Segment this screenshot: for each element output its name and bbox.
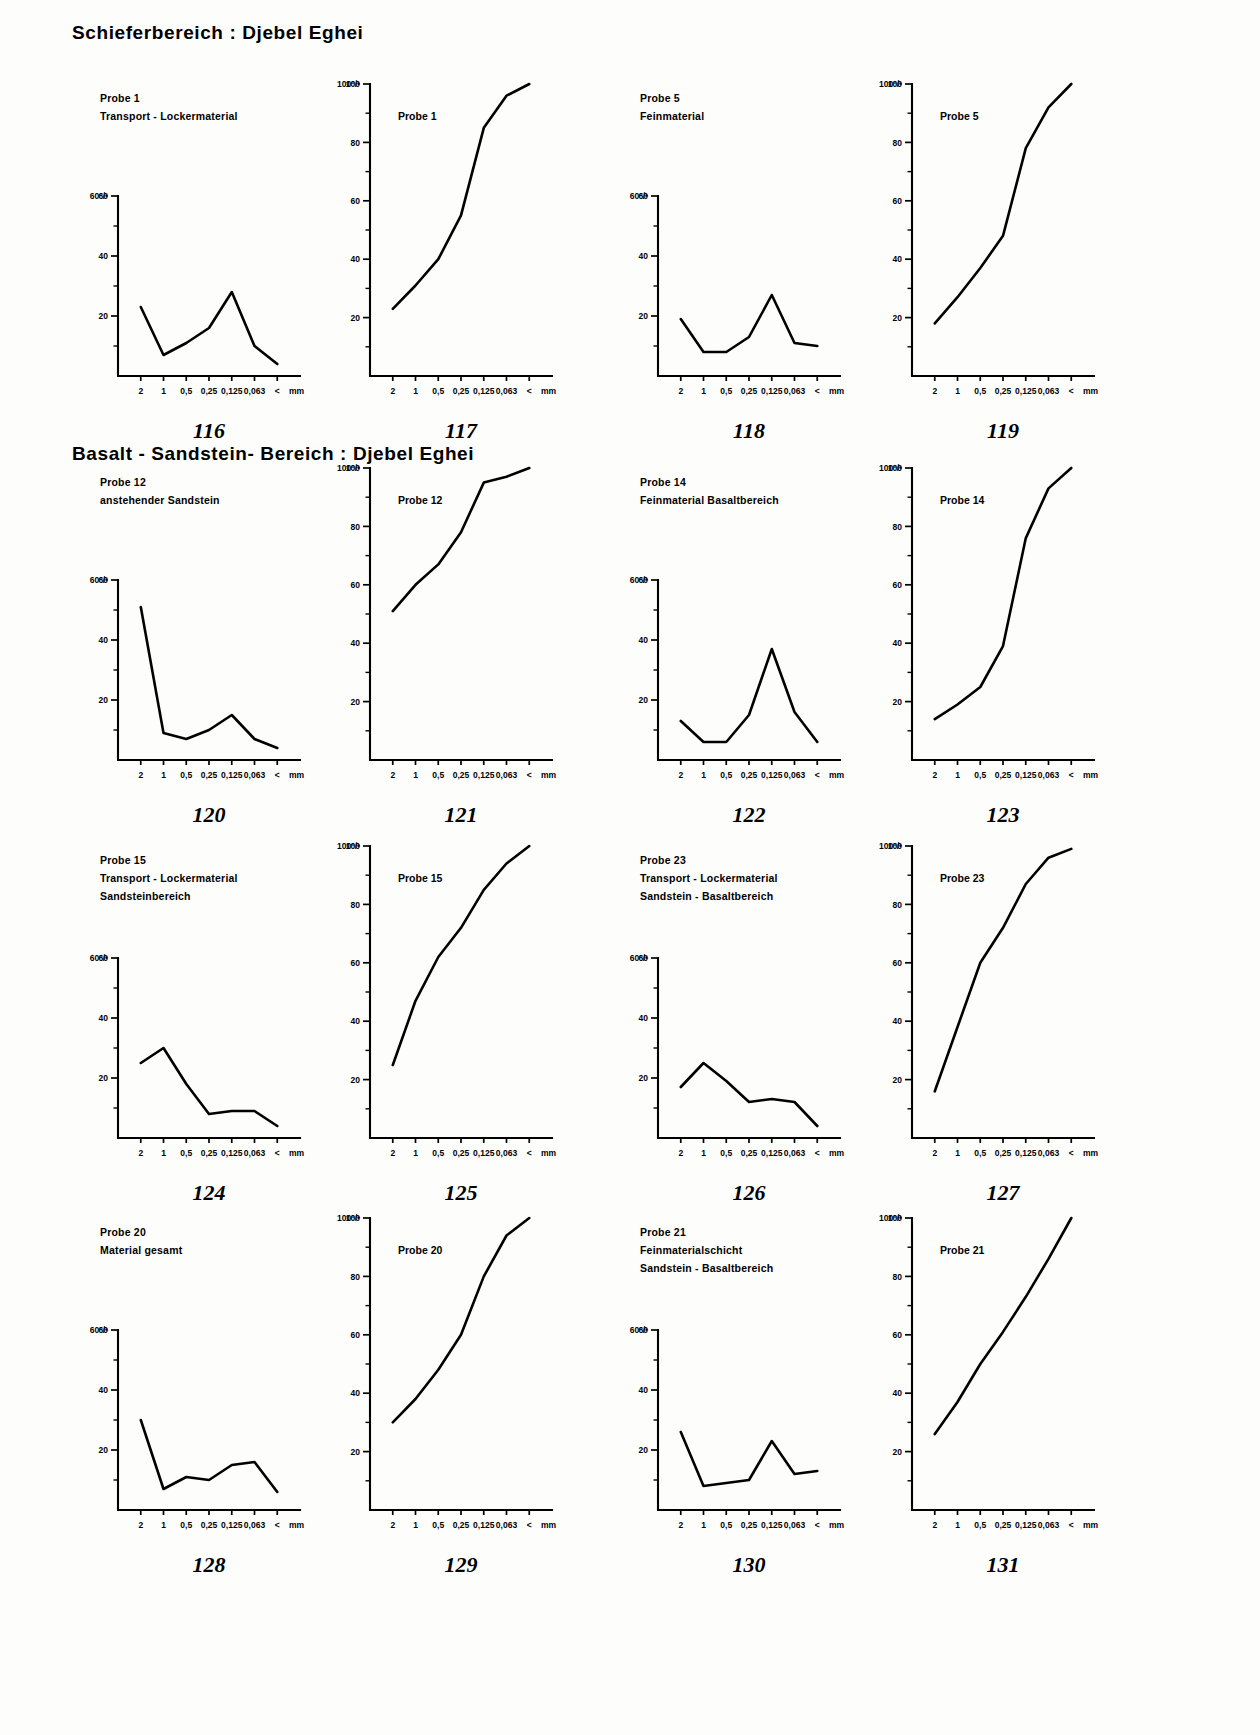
figure-number-123: 123 (963, 802, 1043, 828)
svg-text:<: < (1069, 770, 1074, 780)
svg-text:<: < (527, 1148, 532, 1158)
svg-text:0,25: 0,25 (201, 1520, 218, 1530)
svg-text:0,25: 0,25 (453, 770, 470, 780)
svg-text:80: 80 (351, 522, 361, 532)
chart-122-plot: 20406060°/•210,50,250,1250,063<mm (618, 462, 878, 806)
svg-text:60: 60 (351, 196, 361, 206)
svg-text:40: 40 (351, 254, 361, 264)
svg-text:40: 40 (99, 251, 109, 261)
svg-text:0,063: 0,063 (496, 1148, 518, 1158)
svg-text:2: 2 (138, 1520, 143, 1530)
svg-text:0,25: 0,25 (995, 1148, 1012, 1158)
svg-text:1: 1 (413, 1520, 418, 1530)
chart-120-plot: 20406060°/•210,50,250,1250,063<mm (78, 462, 338, 806)
svg-text:0,125: 0,125 (473, 1148, 495, 1158)
svg-text:1: 1 (161, 386, 166, 396)
svg-text:100°/•: 100°/• (337, 1213, 360, 1223)
svg-text:80: 80 (893, 138, 903, 148)
svg-text:0,5: 0,5 (974, 1148, 986, 1158)
chart-117-plot: 20406080100100°/•210,50,250,1250,063<mmP… (330, 78, 590, 422)
svg-text:2: 2 (390, 1520, 395, 1530)
chart-125-plot: 20406080100100°/•210,50,250,1250,063<mmP… (330, 840, 590, 1184)
chart-126-caption-line-3: Sandstein - Basaltbereich (640, 890, 773, 902)
chart-cell-118: Probe 5Feinmaterial20406060°/•210,50,250… (618, 78, 878, 464)
svg-text:20: 20 (351, 313, 361, 323)
svg-text:0,063: 0,063 (784, 386, 806, 396)
chart-120-caption-line-2: anstehender Sandstein (100, 494, 220, 506)
chart-125-caption-line-1: Probe 15 (398, 872, 443, 884)
svg-text:60: 60 (893, 958, 903, 968)
figure-number-127: 127 (963, 1180, 1043, 1206)
svg-text:1: 1 (413, 1148, 418, 1158)
svg-text:0,063: 0,063 (784, 1148, 806, 1158)
svg-text:0,125: 0,125 (761, 1520, 783, 1530)
chart-126-caption-line-2: Transport - Lockermaterial (640, 872, 778, 884)
svg-text:0,25: 0,25 (201, 386, 218, 396)
chart-116-plot: 20406060°/•210,50,250,1250,063<mm (78, 78, 338, 422)
svg-text:0,125: 0,125 (473, 770, 495, 780)
svg-text:0,25: 0,25 (201, 1148, 218, 1158)
svg-text:20: 20 (893, 697, 903, 707)
svg-text:0,5: 0,5 (720, 1148, 732, 1158)
svg-text:20: 20 (639, 1445, 649, 1455)
svg-text:40: 40 (893, 638, 903, 648)
svg-text:60: 60 (893, 196, 903, 206)
svg-text:100°/•: 100°/• (337, 841, 360, 851)
svg-text:1: 1 (413, 770, 418, 780)
svg-text:0,125: 0,125 (1015, 386, 1037, 396)
svg-text:80: 80 (351, 900, 361, 910)
figure-number-120: 120 (169, 802, 249, 828)
svg-text:20: 20 (893, 1075, 903, 1085)
chart-cell-120: Probe 12anstehender Sandstein20406060°/•… (78, 462, 338, 848)
svg-text:0,125: 0,125 (221, 1520, 243, 1530)
figure-number-118: 118 (709, 418, 789, 444)
svg-text:0,063: 0,063 (1038, 770, 1060, 780)
svg-text:100°/•: 100°/• (879, 79, 902, 89)
svg-text:80: 80 (351, 1272, 361, 1282)
chart-130-curve (681, 1432, 818, 1486)
svg-text:mm: mm (541, 770, 557, 780)
svg-text:60: 60 (351, 1330, 361, 1340)
chart-127-plot: 20406080100100°/•210,50,250,1250,063<mmP… (872, 840, 1132, 1184)
chart-122-curve (681, 649, 818, 742)
figure-number-129: 129 (421, 1552, 501, 1578)
svg-text:0,125: 0,125 (473, 386, 495, 396)
svg-text:20: 20 (893, 313, 903, 323)
svg-text:2: 2 (932, 1148, 937, 1158)
svg-text:2: 2 (932, 1520, 937, 1530)
svg-text:2: 2 (678, 1148, 683, 1158)
figure-number-119: 119 (963, 418, 1043, 444)
svg-text:<: < (527, 770, 532, 780)
chart-124-caption-line-3: Sandsteinbereich (100, 890, 191, 902)
svg-text:0,063: 0,063 (1038, 1520, 1060, 1530)
svg-text:20: 20 (351, 697, 361, 707)
svg-text:0,063: 0,063 (784, 1520, 806, 1530)
svg-text:20: 20 (639, 311, 649, 321)
svg-text:60°/•: 60°/• (630, 191, 648, 201)
svg-text:0,125: 0,125 (1015, 770, 1037, 780)
svg-text:<: < (275, 1520, 280, 1530)
chart-128-caption-line-1: Probe 20 (100, 1226, 146, 1238)
svg-text:0,5: 0,5 (720, 770, 732, 780)
chart-cell-116: Probe 1Transport - Lockermaterial2040606… (78, 78, 338, 464)
svg-text:0,5: 0,5 (720, 386, 732, 396)
figure-number-128: 128 (169, 1552, 249, 1578)
svg-text:1: 1 (701, 770, 706, 780)
svg-text:2: 2 (138, 1148, 143, 1158)
svg-text:0,125: 0,125 (221, 1148, 243, 1158)
figure-number-117: 117 (421, 418, 501, 444)
svg-text:mm: mm (829, 1148, 845, 1158)
svg-text:1: 1 (955, 1148, 960, 1158)
chart-127-curve (935, 849, 1072, 1091)
svg-text:100°/•: 100°/• (879, 1213, 902, 1223)
svg-text:0,5: 0,5 (974, 770, 986, 780)
svg-text:40: 40 (351, 1388, 361, 1398)
svg-text:2: 2 (138, 386, 143, 396)
svg-text:40: 40 (99, 1385, 109, 1395)
chart-119-caption-line-1: Probe 5 (940, 110, 979, 122)
svg-text:0,063: 0,063 (496, 386, 518, 396)
svg-text:0,5: 0,5 (432, 770, 444, 780)
chart-128-curve (141, 1420, 277, 1492)
svg-text:20: 20 (639, 1073, 649, 1083)
svg-text:0,063: 0,063 (1038, 386, 1060, 396)
